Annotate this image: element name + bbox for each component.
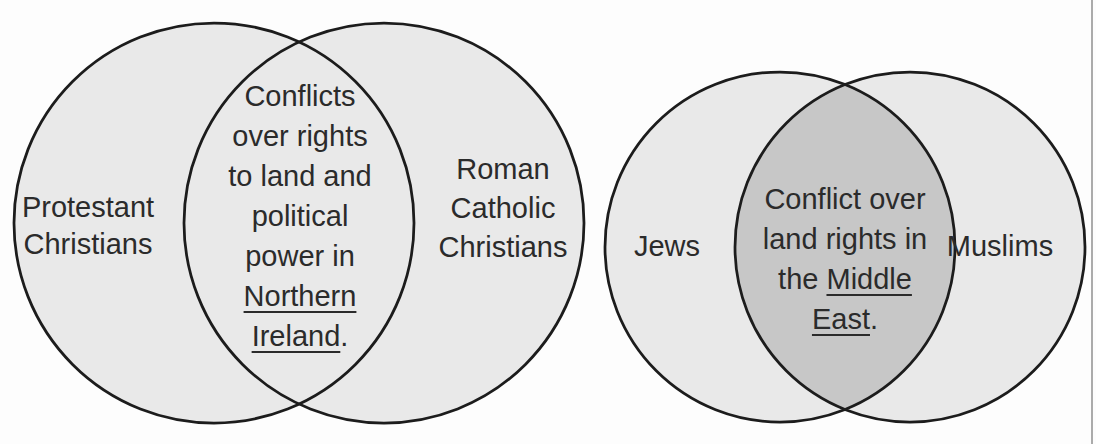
overlap-text-line: the Middle [745,259,945,299]
set-label-line: Roman [423,150,583,189]
right-venn-overlap-text: Conflict over land rights in the Middle … [745,179,945,339]
set-label-line: Catholic [423,189,583,228]
set-label-line: Jews [607,226,727,266]
page-edge-line [1091,0,1093,444]
set-label-line: Christians [8,226,168,263]
overlap-text-line: power in [200,236,400,276]
overlap-text-line: land rights in [745,219,945,259]
overlap-text-line: Northern [200,276,400,316]
venn-figure-canvas: Protestant Christians Roman Catholic Chr… [0,0,1096,444]
overlap-text-line: Conflicts [200,76,400,116]
left-venn-right-set-label: Roman Catholic Christians [423,150,583,267]
overlap-text-line: political [200,196,400,236]
set-label-line: Christians [423,228,583,267]
left-venn-left-set-label: Protestant Christians [8,189,168,263]
right-venn-left-set-label: Jews [607,226,727,266]
set-label-line: Protestant [8,189,168,226]
overlap-text-line: to land and [200,156,400,196]
right-venn-right-set-label: Muslims [940,226,1060,266]
overlap-text-line: East. [745,299,945,339]
left-venn-overlap-text: Conflicts over rights to land and politi… [200,76,400,356]
overlap-text-line: Ireland. [200,316,400,356]
overlap-text-line: over rights [200,116,400,156]
set-label-line: Muslims [940,226,1060,266]
overlap-text-line: Conflict over [745,179,945,219]
